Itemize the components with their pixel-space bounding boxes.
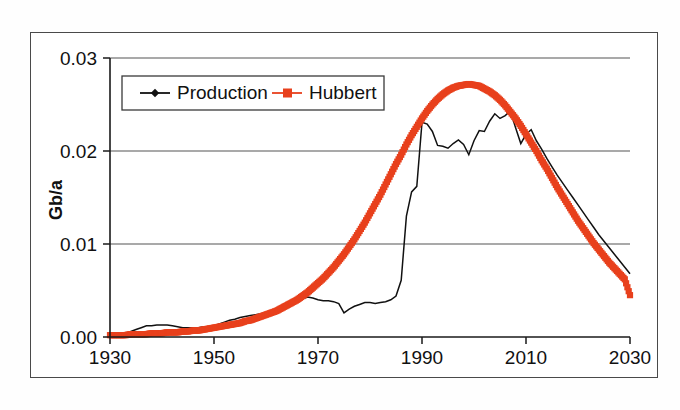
y-tick-group: 0.000.010.020.03 bbox=[60, 48, 110, 348]
y-tick-label-0.02: 0.02 bbox=[60, 141, 97, 162]
chart-canvas: 0.000.010.020.03 19301950197019902010203… bbox=[0, 0, 680, 410]
series-production bbox=[110, 1, 630, 335]
data-series-group bbox=[107, 1, 633, 338]
x-tick-label-1970: 1970 bbox=[297, 347, 339, 368]
y-tick-label-0.01: 0.01 bbox=[60, 234, 97, 255]
x-tick-label-2010: 2010 bbox=[505, 347, 547, 368]
y-tick-label-0.03: 0.03 bbox=[60, 48, 97, 69]
legend-marker-hubbert bbox=[283, 89, 292, 98]
x-tick-group: 193019501970199020102030 bbox=[89, 337, 651, 368]
chart-legend: ProductionHubbert bbox=[122, 76, 384, 110]
legend-label-hubbert: Hubbert bbox=[309, 82, 377, 103]
x-tick-label-1930: 1930 bbox=[89, 347, 131, 368]
y-tick-label-0: 0.00 bbox=[60, 327, 97, 348]
point-hubbert-2030 bbox=[627, 292, 633, 298]
figure-root: 0.000.010.020.03 19301950197019902010203… bbox=[0, 0, 680, 410]
x-tick-label-1990: 1990 bbox=[401, 347, 443, 368]
x-tick-label-1950: 1950 bbox=[193, 347, 235, 368]
legend-label-production: Production bbox=[177, 82, 268, 103]
series-line-production bbox=[110, 111, 630, 335]
series-hubbert bbox=[107, 81, 633, 338]
y-axis-title: Gb/a bbox=[46, 179, 66, 220]
x-tick-label-2030: 2030 bbox=[609, 347, 651, 368]
